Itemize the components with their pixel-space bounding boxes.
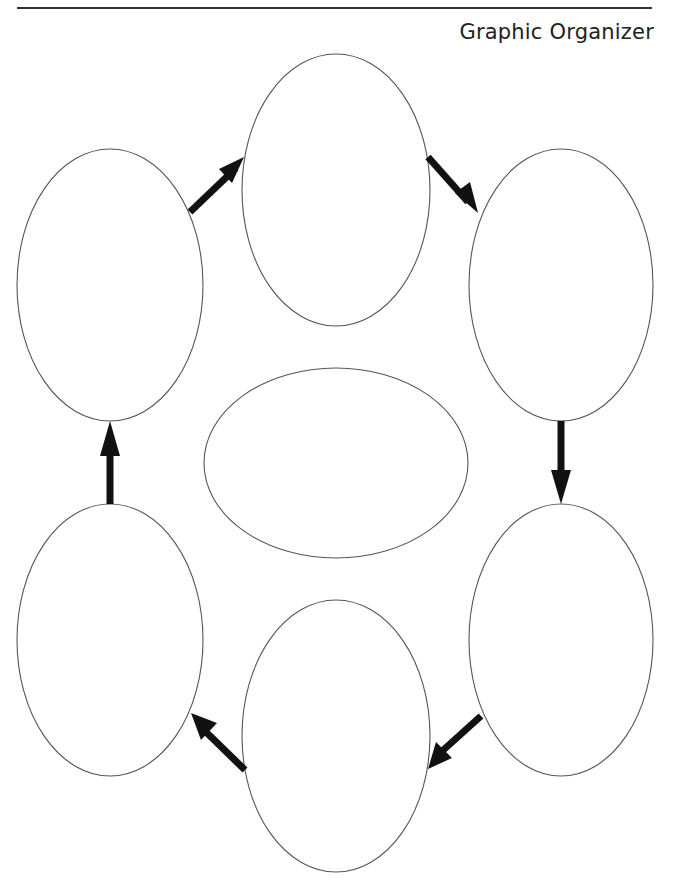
arrow-upper-left-to-top-icon — [190, 157, 244, 212]
oval-bottom — [242, 600, 430, 872]
arrow-lower-right-to-bottom-icon — [428, 716, 481, 769]
oval-top — [242, 54, 430, 326]
oval-lower-left — [17, 504, 203, 776]
arrow-lower-left-to-upper-left-icon — [100, 421, 120, 504]
oval-lower-right — [469, 504, 653, 776]
arrow-bottom-to-lower-left-icon — [191, 713, 245, 770]
cycle-diagram — [0, 0, 674, 888]
arrow-top-to-upper-right-icon — [428, 157, 478, 213]
oval-center — [204, 368, 468, 558]
oval-upper-right — [469, 149, 653, 421]
arrow-upper-right-to-lower-right-icon — [551, 421, 571, 504]
oval-upper-left — [17, 149, 203, 421]
